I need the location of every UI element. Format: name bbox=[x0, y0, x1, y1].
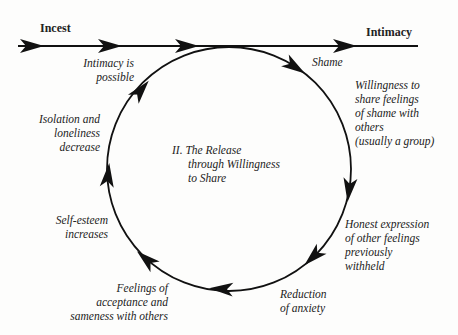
step-isolation: Isolation and loneliness decrease bbox=[39, 112, 100, 154]
step-willingness: Willingness to share feelings of shame w… bbox=[355, 78, 434, 148]
step-honest-expression: Honest expression of other feelings prev… bbox=[345, 217, 429, 273]
step-line: Self-esteem bbox=[56, 213, 108, 227]
arrow-icon bbox=[341, 177, 358, 203]
center-title: II. The Release through Willingness to S… bbox=[172, 143, 280, 185]
step-line: decrease bbox=[39, 140, 100, 154]
step-shame: Shame bbox=[312, 55, 343, 69]
step-line: Feelings of bbox=[70, 281, 168, 295]
title-line: through Willingness bbox=[172, 157, 280, 171]
step-line: previously bbox=[345, 245, 429, 259]
step-line: Honest expression bbox=[345, 217, 429, 231]
step-line: (usually a group) bbox=[355, 134, 434, 148]
step-line: of shame with bbox=[355, 106, 434, 120]
step-line: of other feelings bbox=[345, 231, 429, 245]
incest-label: Incest bbox=[40, 21, 71, 35]
step-line: loneliness bbox=[39, 126, 100, 140]
arrow-icon bbox=[281, 55, 309, 80]
title-line: II. The Release bbox=[172, 143, 280, 157]
step-reduction-anxiety: Reduction of anxiety bbox=[280, 287, 327, 315]
step-line: Shame bbox=[312, 55, 343, 69]
step-line: of anxiety bbox=[280, 301, 327, 315]
intimacy-label: Intimacy bbox=[366, 25, 412, 39]
step-line: acceptance and bbox=[70, 295, 168, 309]
arrow-icon bbox=[209, 281, 234, 296]
step-line: possible bbox=[83, 70, 134, 84]
step-line: others bbox=[355, 120, 434, 134]
step-line: Willingness to bbox=[355, 78, 434, 92]
step-line: Intimacy is bbox=[83, 56, 134, 70]
step-line: Isolation and bbox=[39, 112, 100, 126]
step-line: increases bbox=[56, 227, 108, 241]
title-line: to Share bbox=[172, 171, 280, 185]
step-line: withheld bbox=[345, 259, 429, 273]
step-line: sameness with others bbox=[70, 309, 168, 323]
step-intimacy-possible: Intimacy is possible bbox=[83, 56, 134, 84]
step-line: share feelings bbox=[355, 92, 434, 106]
step-acceptance: Feelings of acceptance and sameness with… bbox=[70, 281, 168, 323]
step-line: Reduction bbox=[280, 287, 327, 301]
step-self-esteem: Self-esteem increases bbox=[56, 213, 108, 241]
